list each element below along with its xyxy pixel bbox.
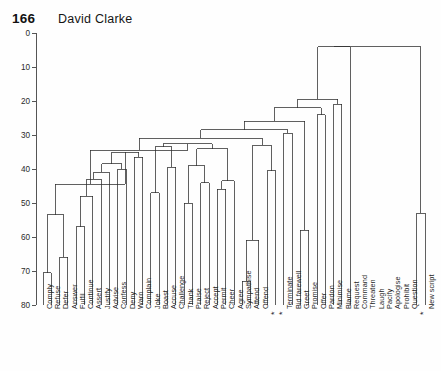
svg-text:0: 0 — [25, 29, 30, 38]
book-page: 166 David Clarke 01020304050607080 Compl… — [0, 0, 441, 371]
svg-text:50: 50 — [21, 199, 31, 208]
dendrogram-figure: 01020304050607080 ComplyRefuseDeferAnswe… — [0, 28, 441, 371]
author-name: David Clarke — [58, 12, 133, 26]
svg-text:10: 10 — [21, 63, 31, 72]
svg-text:30: 30 — [21, 131, 31, 140]
svg-text:80: 80 — [21, 301, 31, 310]
y-axis — [32, 33, 36, 305]
svg-text:40: 40 — [21, 165, 31, 174]
page-number: 166 — [12, 11, 35, 26]
dendrogram-plot: 01020304050607080 — [0, 28, 441, 371]
dendrogram-links — [43, 47, 425, 305]
svg-text:70: 70 — [21, 267, 31, 276]
y-axis-tick-labels: 01020304050607080 — [21, 29, 31, 310]
svg-text:60: 60 — [21, 233, 31, 242]
svg-text:20: 20 — [21, 97, 31, 106]
